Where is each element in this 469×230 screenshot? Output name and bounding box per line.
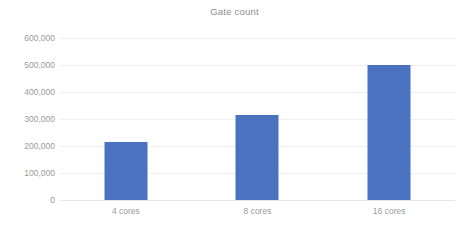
bar-slot <box>60 38 192 200</box>
y-axis-tick-label: 600,000 <box>0 33 55 43</box>
y-axis-tick-label: 500,000 <box>0 60 55 70</box>
axis-baseline <box>60 200 455 201</box>
bar-4-cores[interactable] <box>104 142 147 200</box>
bar-chart: Gate count 0 100,000 200,000 300,000 400… <box>0 0 469 230</box>
y-axis-tick-label: 200,000 <box>0 141 55 151</box>
bar-series <box>60 38 455 200</box>
bar-slot <box>192 38 324 200</box>
bar-slot <box>323 38 455 200</box>
y-axis: 0 100,000 200,000 300,000 400,000 500,00… <box>0 38 55 200</box>
y-axis-tick-label: 400,000 <box>0 87 55 97</box>
x-axis-tick-label: 4 cores <box>60 206 192 216</box>
x-axis: 4 cores 8 cores 16 cores <box>60 206 455 222</box>
plot-area <box>60 38 455 200</box>
x-axis-tick-label: 8 cores <box>192 206 324 216</box>
bar-8-cores[interactable] <box>236 115 279 200</box>
y-axis-tick-label: 100,000 <box>0 168 55 178</box>
y-axis-tick-label: 300,000 <box>0 114 55 124</box>
x-axis-tick-label: 16 cores <box>323 206 455 216</box>
chart-title: Gate count <box>0 6 469 17</box>
y-axis-tick-label: 0 <box>0 195 55 205</box>
bar-16-cores[interactable] <box>368 65 411 200</box>
